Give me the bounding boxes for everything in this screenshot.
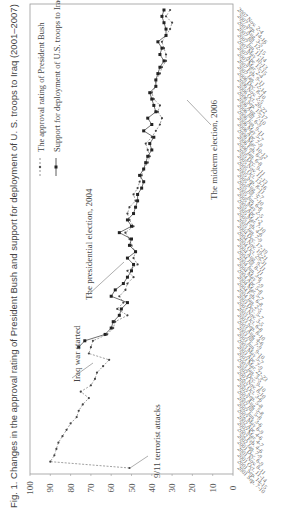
- value-tick-label: 100: [25, 481, 35, 495]
- legend-approval-label: The approval rating of President Bush: [36, 22, 46, 152]
- legend-support-label: Support for deployment of U.S. troops to…: [52, 0, 62, 152]
- annotation-911: 9/11 terrorist attacks: [152, 404, 162, 478]
- annotation-iraq-war: Iraq war started: [72, 325, 82, 382]
- value-tick-label: 20: [187, 483, 197, 493]
- annotation-presidential-election: The presidential election, 2004: [84, 188, 94, 300]
- value-tick-label: 70: [86, 483, 96, 493]
- value-tick-label: 50: [127, 483, 137, 493]
- value-tick-label: 10: [208, 483, 218, 493]
- annotations: 9/11 terrorist attacks Iraq war started …: [72, 100, 219, 478]
- value-tick-label: 0: [228, 485, 238, 490]
- value-tick-label: 60: [106, 483, 116, 493]
- line-chart: 0102030405060708090100 2001 Sep. 7-10200…: [0, 0, 293, 516]
- value-tick-label: 30: [167, 483, 177, 493]
- legend: The approval rating of President Bush Su…: [36, 0, 62, 176]
- value-tick-label: 40: [147, 483, 157, 493]
- approval-series: [49, 9, 173, 469]
- value-tick-label: 90: [45, 483, 55, 493]
- value-axis-ticks: 0102030405060708090100: [25, 474, 238, 495]
- value-tick-label: 80: [66, 483, 76, 493]
- date-axis-labels: 2001 Sep. 7-102001 Sep. 14-152001 Oct. 1…: [236, 6, 269, 494]
- annotation-midterm-election: The midterm election, 2006: [209, 100, 219, 200]
